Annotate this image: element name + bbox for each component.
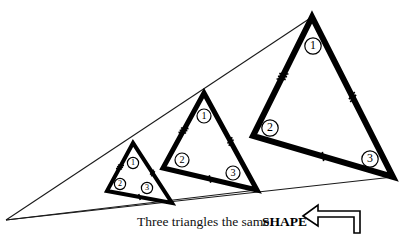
- medium-triangle-angle-label-3: 3: [226, 166, 240, 180]
- medium-triangle-left-tick: [181, 128, 189, 129]
- medium-triangle-angle-label-2: 2: [175, 153, 189, 167]
- angle-label-number: 3: [145, 183, 149, 192]
- angle-label-number: 3: [230, 167, 235, 178]
- angle-label-number: 1: [310, 38, 316, 52]
- small-triangle-angle-label-3: 3: [141, 182, 152, 193]
- three-similar-triangles-figure: 123123123 Three triangles the same SHAPE: [0, 0, 402, 237]
- small-triangle-angle-label-2: 2: [114, 178, 125, 189]
- caption-emphasis-text: SHAPE: [262, 214, 307, 229]
- figure-page: 123123123 Three triangles the same SHAPE: [0, 0, 402, 237]
- medium-triangle-angle-label-1: 1: [197, 109, 211, 123]
- medium-triangle-left-tick: [180, 130, 188, 131]
- angle-label-number: 1: [131, 158, 135, 167]
- large-triangle-angle-label-3: 3: [362, 151, 378, 167]
- caption-plain-text: Three triangles the same: [137, 214, 269, 229]
- angle-label-number: 3: [367, 151, 373, 165]
- medium-triangle-left-tick: [178, 132, 186, 133]
- angle-label-number: 2: [118, 179, 122, 188]
- angle-label-number: 2: [267, 120, 273, 134]
- angle-label-number: 2: [179, 154, 184, 165]
- small-triangle-angle-label-1: 1: [127, 157, 138, 168]
- angle-label-number: 1: [201, 110, 206, 121]
- large-triangle-angle-label-2: 2: [262, 120, 278, 136]
- large-triangle-angle-label-1: 1: [305, 38, 321, 54]
